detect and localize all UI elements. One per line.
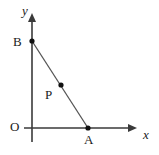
y-axis-label: y [22,4,28,17]
y-axis-arrowhead [28,13,36,22]
x-axis-arrowhead [128,124,137,132]
x-axis-label: x [143,128,149,141]
point-b-label: B [13,35,22,48]
point-a-label: A [84,133,93,146]
origin-label: O [10,120,19,133]
diagram-canvas [0,0,159,155]
point-b-marker [29,38,34,43]
point-a-marker [85,125,90,130]
point-p-label: P [45,88,52,101]
point-p-marker [58,82,63,87]
coordinate-diagram: O B P A x y [0,0,159,155]
